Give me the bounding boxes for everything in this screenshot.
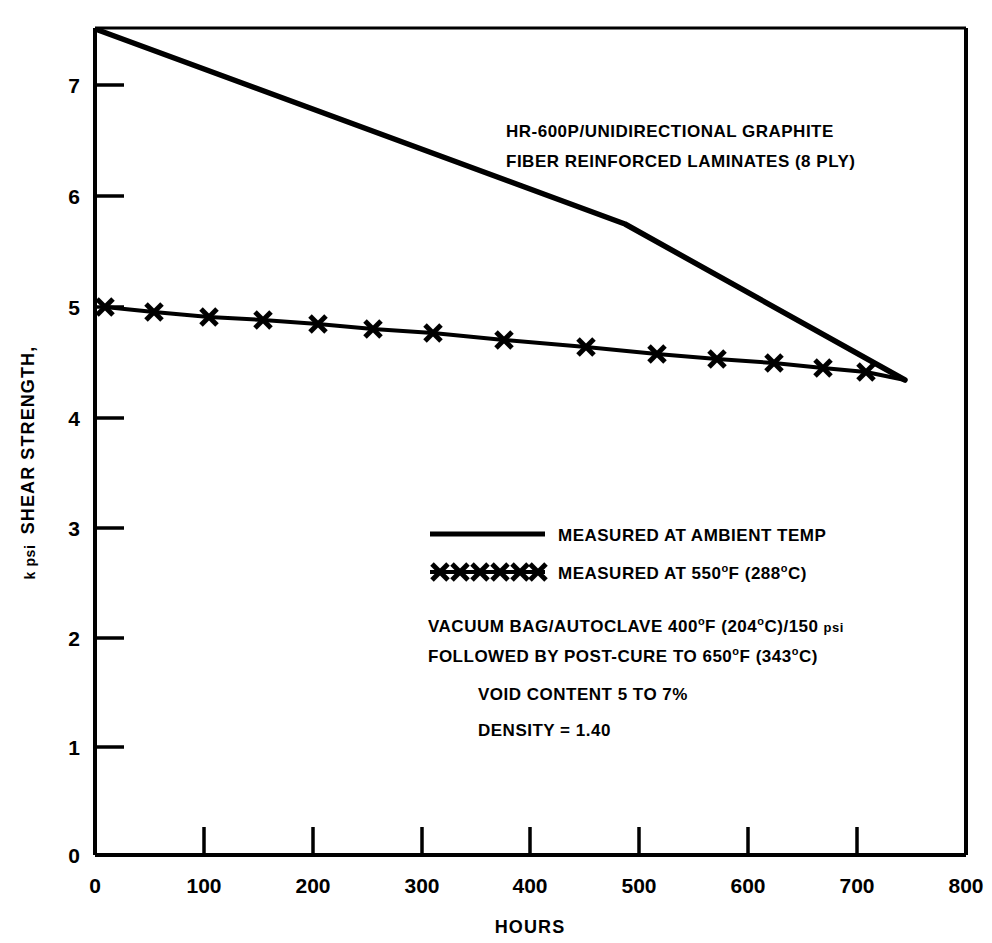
y-tick-label: 1 [68,736,80,759]
cure1-a: VACUUM BAG/AUTOCLAVE 400 [428,617,698,636]
chart-header-annotation: HR-600P/UNIDIRECTIONAL GRAPHITE FIBER RE… [506,122,855,171]
series-ambient-temp [98,30,905,380]
legend-label-ambient: MEASURED AT AMBIENT TEMP [558,526,826,545]
shear-strength-chart: 7 6 5 4 3 2 1 0 0 100 200 300 400 500 [0,0,992,943]
note-density: DENSITY = 1.40 [478,721,611,740]
process-notes: VACUUM BAG/AUTOCLAVE 400oF (204oC)/150ps… [428,615,844,740]
cure2-b: F (343 [740,647,792,666]
cure1-psi: psi [824,620,844,635]
x-tick-label: 0 [89,874,101,897]
series-line-ambient [98,30,905,380]
header-line-2: FIBER REINFORCED LAMINATES (8 PLY) [506,152,855,171]
x-axis-title: HOURS [495,917,566,937]
x-tick-label: 700 [839,874,874,897]
legend-550f-prefix: MEASURED AT 550 [558,564,721,583]
x-tick-label: 500 [621,874,656,897]
x-tick-label: 600 [730,874,765,897]
y-axis-title: SHEAR STRENGTH, k psi [18,346,38,580]
chart-legend: MEASURED AT AMBIENT TEMP MEASURED AT 550… [430,526,826,583]
x-axis-ticks [204,827,857,855]
cure1-degree-1: o [698,615,705,627]
legend-marker-sample-550f [430,564,546,580]
note-void-content: VOID CONTENT 5 TO 7% [478,685,688,704]
legend-550f-degree-2: o [781,562,788,574]
cure1-c: C)/150 [764,617,818,636]
y-axis-ticks [95,85,124,747]
cure2-degree-2: o [792,645,799,657]
legend-550f-degree-1: o [721,562,728,574]
header-line-1: HR-600P/UNIDIRECTIONAL GRAPHITE [506,122,834,141]
x-tick-label: 300 [404,874,439,897]
chart-figure: 7 6 5 4 3 2 1 0 0 100 200 300 400 500 [0,0,992,943]
cure2-degree-1: o [732,645,739,657]
y-tick-labels: 7 6 5 4 3 2 1 0 [68,74,80,867]
note-cure-line-1: VACUUM BAG/AUTOCLAVE 400oF (204oC)/150ps… [428,615,844,636]
y-tick-label: 7 [68,74,80,97]
x-tick-labels: 0 100 200 300 400 500 600 700 800 [89,874,983,897]
y-tick-label: 5 [68,296,80,319]
x-tick-label: 200 [295,874,330,897]
y-tick-label: 6 [68,185,80,208]
x-tick-label: 100 [186,874,221,897]
cure1-degree-2: o [757,615,764,627]
y-tick-label: 3 [68,517,80,540]
x-tick-label: 800 [948,874,983,897]
y-tick-label: 4 [68,407,80,430]
cure1-b: F (204 [705,617,757,636]
legend-550f-suffix: C) [788,564,807,583]
cure2-a: FOLLOWED BY POST-CURE TO 650 [428,647,732,666]
y-axis-title-unit: k psi [22,545,38,580]
y-tick-label: 0 [68,844,80,867]
x-tick-label: 400 [512,874,547,897]
y-axis-title-main: SHEAR STRENGTH, [18,346,38,535]
cure2-c: C) [799,647,818,666]
legend-label-550f: MEASURED AT 550oF (288oC) [558,562,807,583]
y-tick-label: 2 [68,627,80,650]
legend-550f-mid: F (288 [729,564,781,583]
note-cure-line-2: FOLLOWED BY POST-CURE TO 650oF (343oC) [428,645,818,666]
